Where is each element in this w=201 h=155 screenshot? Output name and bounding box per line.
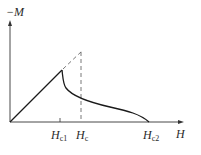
hc-label: Hc — [75, 128, 89, 143]
hc2-label: Hc2 — [142, 128, 159, 143]
hc1-label: Hc1 — [50, 128, 67, 143]
x-axis-arrow-icon — [178, 120, 184, 124]
y-axis-arrow-icon — [8, 20, 12, 26]
meissner-line — [10, 70, 62, 122]
magnetization-diagram: −M H Hc1 Hc Hc2 — [0, 0, 201, 155]
meissner-extension-dashed — [63, 51, 82, 69]
x-axis — [10, 120, 184, 124]
mixed-state-curve — [62, 70, 149, 122]
x-axis-label: H — [175, 127, 186, 141]
y-axis-label: −M — [6, 5, 25, 19]
y-axis — [8, 20, 12, 122]
